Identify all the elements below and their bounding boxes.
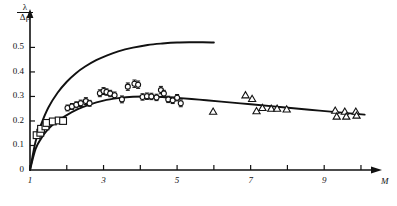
- triangle-marker: [210, 108, 217, 114]
- x-tick-label: 3: [97, 175, 111, 185]
- circle-marker: [178, 101, 183, 106]
- triangle-marker: [242, 92, 249, 98]
- y-tick-label: 0.5: [0, 41, 24, 51]
- x-tick-label: 7: [244, 175, 258, 185]
- circle-marker: [78, 101, 83, 106]
- circle-marker: [154, 95, 159, 100]
- circle-marker: [161, 91, 166, 96]
- x-tick-label: 5: [170, 175, 184, 185]
- y-tick-label: 0.3: [0, 90, 24, 100]
- square-marker: [60, 118, 67, 125]
- triangle-marker: [332, 107, 339, 113]
- triangle-marker: [341, 108, 348, 114]
- lower-fitted-curve: [30, 96, 365, 170]
- chart-plot-area: [0, 0, 397, 206]
- x-axis-label: M: [381, 176, 389, 186]
- y-tick-label: 0.1: [0, 139, 24, 149]
- y-tick-label: 0.2: [0, 115, 24, 125]
- circle-marker: [136, 82, 141, 87]
- figure-container: λ Δρ 00.10.20.30.40.5 13579 M: [0, 0, 397, 206]
- circle-marker: [149, 94, 154, 99]
- circle-marker: [112, 93, 117, 98]
- y-tick-label: 0: [0, 164, 24, 174]
- x-axis-arrowhead: [371, 167, 382, 174]
- x-tick-label: 1: [23, 175, 37, 185]
- x-tick-label: 9: [317, 175, 331, 185]
- y-axis-arrowhead: [27, 9, 34, 18]
- circle-marker: [87, 101, 92, 106]
- circle-marker: [125, 84, 130, 89]
- circle-marker: [119, 97, 124, 102]
- y-tick-label: 0.4: [0, 66, 24, 76]
- upper-theoretical-curve: [30, 42, 214, 170]
- triangle-marker: [333, 113, 340, 119]
- triangle-marker: [249, 95, 256, 101]
